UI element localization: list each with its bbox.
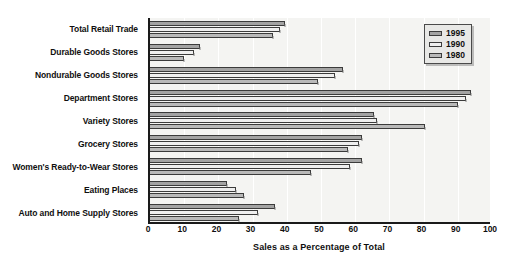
- y-axis-label-department-stores: Department Stores: [64, 87, 138, 110]
- x-tick-20: 20: [212, 224, 221, 234]
- bar-group: [150, 110, 490, 133]
- bar-1980-total-retail-trade: [150, 33, 273, 38]
- bar-1980-eating-places: [150, 193, 244, 198]
- legend-item-1980: 1980: [429, 50, 465, 60]
- gridline: [492, 18, 493, 222]
- y-axis-label-women-s-ready-to-wear-stores: Women's Ready-to-Wear Stores: [13, 155, 139, 178]
- legend-label-1990: 1990: [446, 40, 465, 49]
- bar-group: [150, 132, 490, 155]
- bar-1980-department-stores: [150, 102, 458, 107]
- bar-1980-nondurable-goods-stores: [150, 79, 318, 84]
- bar-1995-nondurable-goods-stores: [150, 67, 343, 72]
- x-tick-90: 90: [451, 224, 460, 234]
- x-tick-40: 40: [280, 224, 289, 234]
- y-axis-label-grocery-stores: Grocery Stores: [78, 132, 138, 155]
- legend-swatch-1980: [429, 53, 442, 58]
- x-tick-60: 60: [348, 224, 357, 234]
- y-axis-label-total-retail-trade: Total Retail Trade: [70, 18, 138, 41]
- bar-1995-department-stores: [150, 90, 471, 95]
- legend-item-1995: 1995: [429, 28, 465, 38]
- bar-1995-total-retail-trade: [150, 21, 285, 26]
- chart-legend: 199519901980: [424, 24, 472, 64]
- bar-group: [150, 64, 490, 87]
- bar-group: [150, 87, 490, 110]
- x-tick-80: 80: [417, 224, 426, 234]
- x-tick-30: 30: [246, 224, 255, 234]
- x-tick-100: 100: [483, 224, 497, 234]
- bar-1995-eating-places: [150, 181, 227, 186]
- legend-swatch-1995: [429, 31, 442, 36]
- legend-label-1980: 1980: [446, 51, 465, 60]
- x-axis-title: Sales as a Percentage of Total: [148, 242, 490, 252]
- legend-item-1990: 1990: [429, 39, 465, 49]
- bar-chart-figure: Total Retail TradeDurable Goods StoresNo…: [0, 0, 517, 274]
- bar-1980-grocery-stores: [150, 147, 348, 152]
- bar-1995-durable-goods-stores: [150, 44, 200, 49]
- y-axis-label-eating-places: Eating Places: [84, 178, 138, 201]
- y-axis-label-auto-and-home-supply-stores: Auto and Home Supply Stores: [18, 201, 138, 224]
- bar-1990-durable-goods-stores: [150, 50, 194, 55]
- x-tick-50: 50: [314, 224, 323, 234]
- bar-1990-department-stores: [150, 96, 466, 101]
- x-axis-tick-labels: 0102030405060708090100: [148, 224, 490, 240]
- y-axis-category-labels: Total Retail TradeDurable Goods StoresNo…: [0, 18, 143, 224]
- y-axis-label-durable-goods-stores: Durable Goods Stores: [50, 41, 138, 64]
- bar-1995-variety-stores: [150, 112, 374, 117]
- bar-1995-auto-and-home-supply-stores: [150, 204, 275, 209]
- bar-1990-grocery-stores: [150, 141, 359, 146]
- bar-1995-grocery-stores: [150, 135, 362, 140]
- bar-group: [150, 201, 490, 224]
- y-axis-label-nondurable-goods-stores: Nondurable Goods Stores: [35, 64, 138, 87]
- bar-1980-women-s-ready-to-wear-stores: [150, 170, 311, 175]
- bar-1980-auto-and-home-supply-stores: [150, 216, 239, 221]
- bar-1995-women-s-ready-to-wear-stores: [150, 158, 362, 163]
- bar-1990-eating-places: [150, 187, 236, 192]
- bar-1990-total-retail-trade: [150, 27, 280, 32]
- x-tick-0: 0: [146, 224, 151, 234]
- bar-1990-nondurable-goods-stores: [150, 73, 335, 78]
- bar-group: [150, 178, 490, 201]
- bar-1980-variety-stores: [150, 124, 425, 129]
- bar-1990-variety-stores: [150, 118, 377, 123]
- x-tick-10: 10: [177, 224, 186, 234]
- bar-1990-auto-and-home-supply-stores: [150, 210, 258, 215]
- x-tick-70: 70: [383, 224, 392, 234]
- legend-swatch-1990: [429, 42, 442, 47]
- legend-label-1995: 1995: [446, 29, 465, 38]
- bar-group: [150, 155, 490, 178]
- bar-1980-durable-goods-stores: [150, 56, 184, 61]
- y-axis-label-variety-stores: Variety Stores: [83, 110, 138, 133]
- bar-1990-women-s-ready-to-wear-stores: [150, 164, 350, 169]
